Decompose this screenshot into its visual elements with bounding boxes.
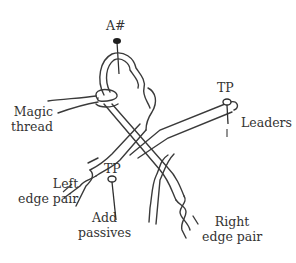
magic-thread-tails xyxy=(48,96,98,113)
label-right-edge-pair: Right edge pair xyxy=(202,214,262,244)
right-crossing-strands xyxy=(149,154,174,224)
label-top-pin: A# xyxy=(106,18,126,33)
label-add-passives: Add passives xyxy=(78,210,131,240)
label-magic-thread: Magic thread xyxy=(11,104,53,134)
label-tp-leaders: TP xyxy=(217,80,234,95)
label-leaders: Leaders xyxy=(241,115,292,130)
lace-diagram: A# Magic thread TP Leaders Left edge pai… xyxy=(0,0,296,263)
label-tp-passives: TP xyxy=(104,161,121,176)
label-left-edge-pair: Left edge pair xyxy=(18,176,78,206)
magic-thread-loop xyxy=(96,53,156,130)
pin-a-sharp xyxy=(113,38,121,74)
pin-tp-leaders xyxy=(223,99,231,137)
